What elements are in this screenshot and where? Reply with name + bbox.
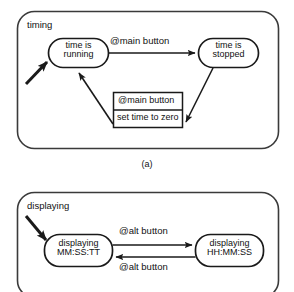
transition-label-main-button: @main button <box>110 36 169 46</box>
initial-transition-arrow-timing <box>26 62 47 84</box>
initial-transition-arrow-displaying <box>26 216 46 240</box>
transition-action-to-running <box>79 73 113 124</box>
state-label-line2: running <box>48 50 109 59</box>
state-label-line2: stopped <box>198 50 259 59</box>
action-box-trigger: @main button <box>118 96 174 105</box>
state-label-time-is-running: time is running <box>48 41 109 60</box>
state-label-line2: HH:MM:SS <box>195 248 264 257</box>
region-label-timing: timing <box>27 20 52 30</box>
statechart-figure: timing time is running time is stopped @… <box>0 0 294 292</box>
state-label-time-is-stopped: time is stopped <box>198 41 259 60</box>
state-label-displaying-hhmmss: displaying HH:MM:SS <box>195 239 264 258</box>
action-box-action: set time to zero <box>117 113 179 122</box>
transition-label-alt-button-top: @alt button <box>119 226 168 236</box>
figure-caption-a: (a) <box>127 160 167 169</box>
transition-stopped-to-action <box>186 68 213 122</box>
region-label-displaying: displaying <box>27 201 69 211</box>
transition-label-alt-button-bottom: @alt button <box>119 262 168 272</box>
state-label-displaying-mmsstt: displaying MM:SS:TT <box>44 239 113 258</box>
state-label-line2: MM:SS:TT <box>44 248 113 257</box>
